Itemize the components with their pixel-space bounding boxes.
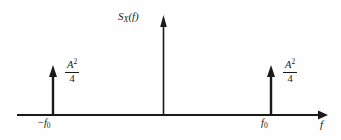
impulse-positive-f0-arrowhead xyxy=(267,65,275,77)
fraction-numerator: A2 xyxy=(283,58,297,73)
fraction-denominator: 4 xyxy=(65,73,79,85)
impulse-negative-f0-weight-label: A2 4 xyxy=(65,58,79,84)
x-tick-subscript: 0 xyxy=(264,121,268,130)
y-axis-title: SX(f) xyxy=(118,11,139,24)
x-tick-label-negative-f0: −f0 xyxy=(38,118,51,130)
y-axis-arrowhead xyxy=(160,15,167,27)
x-tick-label-positive-f0: f0 xyxy=(261,118,268,130)
impulse-positive-f0-weight-label: A2 4 xyxy=(283,58,297,84)
x-axis-title: f xyxy=(320,119,323,130)
numerator-exponent: 2 xyxy=(73,57,77,66)
fraction: A2 4 xyxy=(65,58,79,84)
y-axis-title-argument: (f) xyxy=(128,10,138,22)
x-tick-subscript: 0 xyxy=(47,121,51,130)
fraction-numerator: A2 xyxy=(65,58,79,73)
psd-figure: SX(f) f −f0 f0 A2 4 A2 4 xyxy=(0,0,341,140)
fraction: A2 4 xyxy=(283,58,297,84)
numerator-exponent: 2 xyxy=(291,57,295,66)
fraction-denominator: 4 xyxy=(283,73,297,85)
impulse-negative-f0-arrowhead xyxy=(49,65,57,77)
